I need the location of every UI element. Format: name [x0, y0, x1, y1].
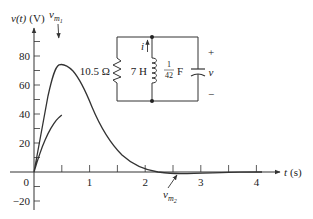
capacitor-denominator: 42	[165, 71, 173, 80]
x-tick-2: 2	[142, 176, 148, 188]
top-wire	[117, 37, 198, 67]
x-ticks	[62, 165, 257, 172]
y-tick-20: 20	[19, 137, 31, 149]
vm1-arrow	[58, 24, 59, 38]
vm2-annotation: vm2	[163, 175, 177, 204]
x-tick-4: 4	[254, 176, 260, 188]
polarity-plus: +	[208, 46, 214, 58]
bottom-node	[150, 99, 154, 103]
vm2-label: vm2	[163, 188, 177, 204]
rlc-circuit: i 10.5 Ω 7 H 1 42 F + v −	[80, 35, 214, 103]
bottom-wire	[117, 37, 198, 101]
voltage-label: v	[209, 66, 214, 78]
capacitor-label: 1 42 F	[164, 60, 183, 80]
y-axis-label: v(t)(V)	[11, 12, 45, 25]
vm1-annotation: vm1	[49, 8, 63, 38]
x-tick-labels: 1 2 3 4	[87, 176, 260, 188]
x-tick-1: 1	[87, 176, 93, 188]
y-tick-labels: 80 60 40 20 −20 0	[13, 50, 31, 207]
y-tick-40: 40	[19, 108, 31, 120]
voltage-curve	[34, 65, 262, 174]
y-ticks	[34, 42, 40, 202]
inductor-label: 7 H	[131, 65, 147, 77]
x-tick-3: 3	[198, 176, 204, 188]
current-label: i	[141, 40, 144, 52]
vm1-label: vm1	[49, 8, 63, 24]
waveform-figure: 80 60 40 20 −20 0 1 2 3 4 v(t)(V) t(s) v…	[0, 0, 313, 219]
x-axis-label: t(s)	[284, 166, 302, 179]
y-tick-80: 80	[19, 50, 31, 62]
top-node	[150, 35, 154, 39]
capacitor-numerator: 1	[167, 60, 171, 69]
y-tick-60: 60	[19, 79, 31, 91]
vm2-arrow	[168, 175, 177, 188]
y-tick-neg20: −20	[13, 195, 31, 207]
capacitor-unit: F	[177, 65, 183, 77]
inductor-icon	[152, 58, 157, 83]
polarity-minus: −	[208, 88, 214, 100]
origin-label: 0	[24, 176, 30, 188]
resistor-label: 10.5 Ω	[80, 65, 110, 77]
